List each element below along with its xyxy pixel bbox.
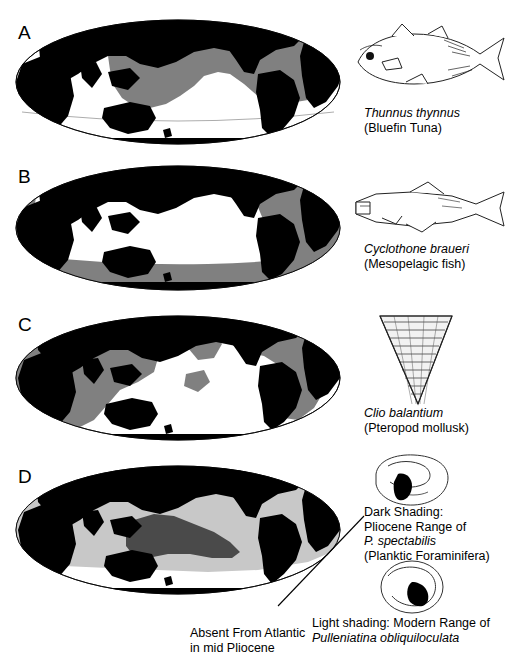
caption-c-common: (Pteropod mollusk) — [364, 421, 469, 436]
map-b-svg — [8, 158, 348, 298]
foram-light-illustration — [372, 558, 452, 616]
caption-a-common: (Bluefin Tuna) — [364, 121, 460, 136]
legend-dark-line1: Dark Shading: — [364, 505, 490, 520]
caption-a: Thunnus thynnus (Bluefin Tuna) — [364, 106, 460, 135]
map-b — [8, 158, 348, 298]
legend-dark-line2: Pliocene Range of — [364, 520, 490, 535]
map-a — [8, 12, 348, 152]
map-c-svg — [8, 308, 348, 448]
mesopelagic-fish-svg — [352, 180, 508, 234]
foram-dark-illustration — [368, 452, 454, 508]
legend-dark-line3: P. spectabilis — [364, 534, 490, 549]
legend-light-line2: Pulleniatina obliquiloculata — [312, 631, 490, 646]
tuna-illustration — [352, 22, 508, 94]
caption-b: Cyclothone braueri (Mesopelagic fish) — [364, 242, 469, 271]
caption-b-common: (Mesopelagic fish) — [364, 257, 469, 272]
land-greenland-a — [304, 12, 340, 30]
pteropod-svg — [366, 312, 466, 408]
annotation-leader-line — [260, 514, 370, 614]
land-europe-af-a — [300, 34, 346, 108]
foram-light-svg — [372, 558, 452, 616]
land-europe-af-b — [300, 178, 346, 252]
absent-atlantic-line2: in mid Pliocene — [190, 641, 305, 656]
tuna-svg — [352, 22, 508, 94]
panel-b: B — [0, 150, 512, 300]
foram-dark-svg — [368, 452, 454, 508]
caption-c-scientific: Clio balantium — [364, 406, 469, 421]
caption-b-scientific: Cyclothone braueri — [364, 242, 469, 257]
map-a-svg — [8, 12, 348, 152]
mesopelagic-fish-illustration — [352, 180, 508, 234]
figure-root: A — [0, 0, 512, 660]
caption-c: Clio balantium (Pteropod mollusk) — [364, 406, 469, 435]
absent-atlantic-line1: Absent From Atlantic — [190, 626, 305, 641]
legend-light-line1: Light shading: Modern Range of — [312, 616, 490, 631]
panel-a: A — [0, 0, 512, 150]
land-samerica-a — [256, 70, 300, 136]
land-europe-af-c — [302, 326, 348, 400]
pteropod-shell-illustration — [366, 312, 466, 408]
map-c — [8, 308, 348, 448]
caption-a-scientific: Thunnus thynnus — [364, 106, 460, 121]
legend-light-shading: Light shading: Modern Range of Pulleniat… — [312, 616, 490, 645]
land-greenland-d — [304, 458, 342, 476]
legend-dark-shading: Dark Shading: Pliocene Range of P. spect… — [364, 505, 490, 563]
panel-c: C — [0, 300, 512, 450]
absent-atlantic-annotation: Absent From Atlantic in mid Pliocene — [190, 626, 305, 655]
land-antarctica-c — [48, 434, 310, 448]
